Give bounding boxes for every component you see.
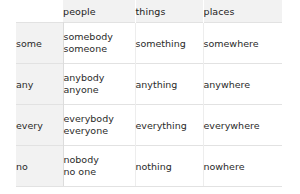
cell-lines: nobody no one bbox=[64, 154, 135, 177]
cell-lines: everybody everyone bbox=[64, 113, 135, 136]
cell-line: somewhere bbox=[204, 38, 283, 49]
table-row: no nobody no one nothing nowhere bbox=[16, 146, 282, 187]
cell-line: nobody bbox=[64, 154, 135, 166]
cell-line: everyone bbox=[64, 125, 135, 137]
cell-lines: anybody anyone bbox=[64, 72, 135, 95]
cell-lines: somebody someone bbox=[64, 31, 135, 54]
column-header-things: things bbox=[135, 0, 203, 23]
cell-any-places: anywhere bbox=[203, 64, 282, 105]
cell-every-places: everywhere bbox=[203, 105, 282, 146]
cell-line: no one bbox=[64, 166, 135, 178]
cell-line: anybody bbox=[64, 72, 135, 84]
cell-every-things: everything bbox=[135, 105, 203, 146]
cell-line: anything bbox=[136, 79, 203, 90]
row-label-some: some bbox=[16, 23, 63, 64]
cell-line: anywhere bbox=[204, 79, 283, 90]
indefinite-pronouns-table: people things places some somebody someo… bbox=[16, 0, 282, 187]
table-row: some somebody someone something somewher… bbox=[16, 23, 282, 64]
cell-line: everything bbox=[136, 120, 203, 131]
table-row: every everybody everyone everything ever… bbox=[16, 105, 282, 146]
corner-cell bbox=[16, 0, 63, 23]
cell-no-places: nowhere bbox=[203, 146, 282, 187]
cell-line: something bbox=[136, 38, 203, 49]
table-row: any anybody anyone anything anywhere bbox=[16, 64, 282, 105]
row-label-any: any bbox=[16, 64, 63, 105]
row-label-every: every bbox=[16, 105, 63, 146]
cell-line: nothing bbox=[136, 161, 203, 172]
cell-line: anyone bbox=[64, 84, 135, 96]
cell-no-people: nobody no one bbox=[63, 146, 135, 187]
cell-any-people: anybody anyone bbox=[63, 64, 135, 105]
cell-every-people: everybody everyone bbox=[63, 105, 135, 146]
column-header-people: people bbox=[63, 0, 135, 23]
cell-line: someone bbox=[64, 43, 135, 55]
cell-some-things: something bbox=[135, 23, 203, 64]
cell-line: somebody bbox=[64, 31, 135, 43]
cell-line: everybody bbox=[64, 113, 135, 125]
cell-no-things: nothing bbox=[135, 146, 203, 187]
cell-line: everywhere bbox=[204, 120, 283, 131]
row-label-no: no bbox=[16, 146, 63, 187]
column-header-places: places bbox=[203, 0, 282, 23]
cell-line: nowhere bbox=[204, 161, 283, 172]
cell-some-places: somewhere bbox=[203, 23, 282, 64]
cell-some-people: somebody someone bbox=[63, 23, 135, 64]
cell-any-things: anything bbox=[135, 64, 203, 105]
table-header-row: people things places bbox=[16, 0, 282, 23]
